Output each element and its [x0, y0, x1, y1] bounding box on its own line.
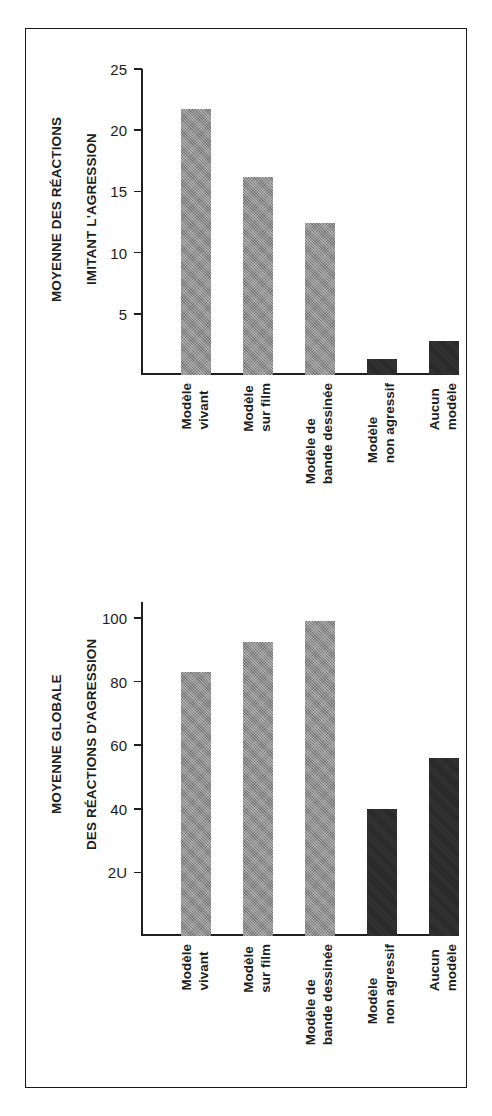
y-tick — [134, 808, 142, 810]
y-tick — [134, 191, 142, 193]
y-tick-label: 60 — [81, 738, 127, 753]
x-category-label: Modèlevivant — [179, 383, 215, 430]
chart-panel-top: MOYENNE DES RÉACTIONS IMITANT L'AGRESSIO… — [26, 29, 466, 559]
bar — [243, 642, 273, 936]
y-axis-line — [141, 69, 143, 375]
x-category-label: Modèlenon agressif — [365, 383, 401, 463]
category-label-line2: bande dessinée — [320, 944, 337, 1045]
bar — [367, 809, 397, 936]
category-label-line2: modèle — [444, 383, 461, 430]
y-tick — [134, 313, 142, 315]
y-tick — [134, 129, 142, 131]
y-tick — [134, 872, 142, 874]
bar — [367, 359, 397, 375]
y-tick — [134, 252, 142, 254]
x-category-label: Modèlesur film — [241, 383, 277, 432]
y-tick-label: 2U — [81, 865, 127, 880]
bar — [243, 177, 273, 375]
category-label-line2: modèle — [444, 944, 461, 991]
category-label-line1: Modèle de — [303, 418, 318, 484]
y-axis-line — [141, 602, 143, 936]
category-label-line1: Modèle — [179, 944, 194, 991]
y-tick-label: 100 — [81, 610, 127, 625]
y-tick — [134, 68, 142, 70]
plot-area-bottom: 2U406080100ModèlevivantModèlesur filmMod… — [141, 602, 456, 936]
category-label-line2: non agressif — [382, 383, 399, 463]
bar — [181, 109, 211, 375]
category-label-line1: Modèle — [241, 385, 256, 432]
x-category-label: Modèlenon agressif — [365, 944, 401, 1024]
bar — [181, 672, 211, 936]
chart-panel-bottom: MOYENNE GLOBALE DES RÉACTIONS D'AGRESSIO… — [26, 559, 466, 1087]
category-label-line2: vivant — [196, 944, 213, 991]
category-label-line1: Modèle de — [303, 979, 318, 1045]
x-category-label: Modèlesur film — [241, 944, 277, 993]
x-category-label: Modèlevivant — [179, 944, 215, 991]
y-axis-title-bottom-line1: MOYENNE GLOBALE — [49, 674, 64, 814]
y-axis-title-top-line1: MOYENNE DES RÉACTIONS — [49, 116, 64, 301]
category-label-line2: sur film — [258, 944, 275, 993]
category-label-line2: non agressif — [382, 944, 399, 1024]
bar — [429, 341, 459, 375]
y-tick — [134, 744, 142, 746]
y-tick-label: 40 — [81, 801, 127, 816]
y-tick — [134, 617, 142, 619]
bar — [305, 621, 335, 936]
category-label-line1: Modèle — [241, 946, 256, 993]
y-tick-label: 15 — [81, 184, 127, 199]
y-tick-label: 5 — [81, 306, 127, 321]
x-category-label: Aucunmodèle — [427, 383, 463, 430]
bar — [429, 758, 459, 936]
category-label-line2: sur film — [258, 383, 275, 432]
y-tick-label: 25 — [81, 62, 127, 77]
y-tick-label: 80 — [81, 674, 127, 689]
category-label-line1: Aucun — [427, 949, 442, 991]
x-category-label: Aucunmodèle — [427, 944, 463, 991]
category-label-line1: Modèle — [365, 978, 380, 1025]
figure-border: MOYENNE DES RÉACTIONS IMITANT L'AGRESSIO… — [25, 28, 467, 1088]
category-label-line1: Modèle — [365, 417, 380, 464]
category-label-line1: Modèle — [179, 383, 194, 430]
x-category-label: Modèle debande dessinée — [303, 383, 339, 484]
x-category-label: Modèle debande dessinée — [303, 944, 339, 1045]
figure-page: MOYENNE DES RÉACTIONS IMITANT L'AGRESSIO… — [0, 0, 492, 1116]
plot-area-top: 510152025ModèlevivantModèlesur filmModèl… — [141, 69, 456, 375]
y-tick-label: 10 — [81, 245, 127, 260]
category-label-line2: bande dessinée — [320, 383, 337, 484]
category-label-line1: Aucun — [427, 388, 442, 430]
category-label-line2: vivant — [196, 383, 213, 430]
y-tick-label: 20 — [81, 123, 127, 138]
bar — [305, 223, 335, 375]
y-tick — [134, 681, 142, 683]
